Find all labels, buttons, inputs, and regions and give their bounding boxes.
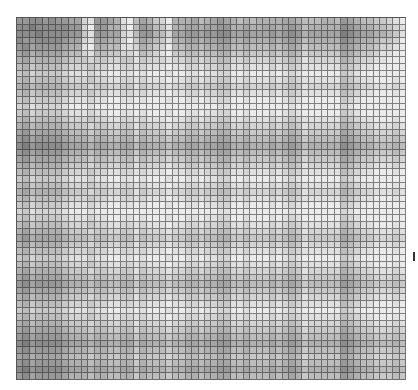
matrix-cell [400,136,406,143]
matrix-cell [400,84,406,91]
edge-tick-mark [413,252,415,261]
matrix-cell [400,44,406,51]
matrix-cell [400,354,406,361]
matrix-cell [400,235,406,242]
matrix-cell [400,64,406,71]
matrix-cell [400,215,406,222]
matrix-cell [400,163,406,170]
matrix-cell [400,104,406,111]
matrix-cell [400,222,406,229]
matrix-cell [400,117,406,124]
cell-matrix [16,17,406,380]
matrix-cell [400,189,406,196]
matrix-cell [400,360,406,367]
matrix-cell [400,123,406,130]
matrix-cell [400,262,406,269]
matrix-cell [400,314,406,321]
matrix-cell [400,327,406,334]
matrix-cell [400,308,406,315]
matrix-cell [400,110,406,117]
matrix-cell [400,57,406,64]
matrix-cell [400,242,406,249]
matrix-cell [400,169,406,176]
matrix-cell [400,334,406,341]
matrix-cell [400,347,406,354]
matrix-cell [400,275,406,282]
matrix-cell [400,143,406,150]
matrix-cell [400,373,406,380]
matrix-cell [400,25,406,32]
figure-canvas [0,0,418,390]
matrix-cell [400,294,406,301]
matrix-cell [400,38,406,45]
matrix-cell [400,229,406,236]
matrix-cell [400,281,406,288]
matrix-cell [400,18,406,25]
matrix-cell [400,90,406,97]
matrix-cell [400,367,406,374]
matrix-cell [400,202,406,209]
matrix-cell [400,130,406,137]
matrix-cell [400,288,406,295]
matrix-cell [400,176,406,183]
matrix-cell [400,301,406,308]
matrix-cell [400,255,406,262]
matrix-cell [400,51,406,58]
matrix-cell [400,321,406,328]
matrix-cell [400,183,406,190]
matrix-cell [400,209,406,216]
matrix-cell [400,150,406,157]
matrix-cell [400,77,406,84]
matrix-cell [400,268,406,275]
matrix-cell [400,196,406,203]
matrix-cell [400,341,406,348]
matrix-cell [400,97,406,104]
matrix-cell [400,156,406,163]
matrix-cell [400,248,406,255]
matrix-cell [400,31,406,38]
matrix-cell [400,71,406,78]
